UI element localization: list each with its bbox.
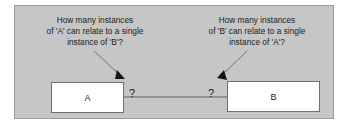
note-right-line-2: of 'B' can relate to a single bbox=[193, 26, 321, 37]
entity-box-a: A bbox=[51, 82, 124, 113]
cardinality-marker-left: ? bbox=[129, 88, 135, 99]
note-left: How many instances of 'A' can relate to … bbox=[31, 15, 159, 48]
note-left-line-3: instance of 'B'? bbox=[31, 37, 159, 48]
entity-box-b: B bbox=[227, 81, 320, 112]
note-right-line-1: How many instances bbox=[193, 15, 321, 26]
leader-line-right bbox=[221, 51, 247, 76]
note-left-line-1: How many instances bbox=[31, 15, 159, 26]
entity-a-label: A bbox=[84, 93, 90, 103]
cardinality-marker-right: ? bbox=[208, 88, 214, 99]
note-left-line-2: of 'A' can relate to a single bbox=[31, 26, 159, 37]
diagram-panel: How many instances of 'A' can relate to … bbox=[14, 5, 334, 119]
entity-b-label: B bbox=[270, 92, 276, 102]
note-right: How many instances of 'B' can relate to … bbox=[193, 15, 321, 48]
note-right-line-3: instance of 'A'? bbox=[193, 37, 321, 48]
